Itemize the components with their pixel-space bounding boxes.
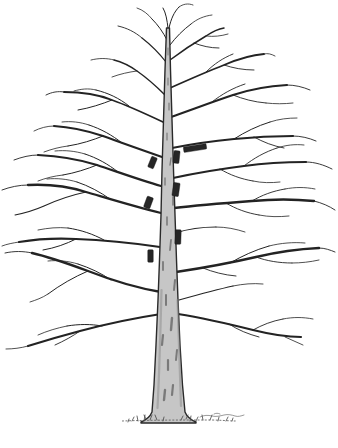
branches-right — [170, 28, 335, 345]
placement-marker-left-mid — [143, 196, 153, 209]
placement-marker-left-lower — [148, 250, 154, 263]
trunk — [141, 28, 196, 423]
artist-signature — [200, 413, 244, 417]
tree-illustration-canvas — [0, 0, 338, 448]
branches-left — [2, 8, 167, 349]
placement-marker-trunk-right-lower — [175, 230, 182, 245]
placement-marker-trunk-right-upper — [173, 150, 180, 163]
placement-marker-left-upper — [148, 156, 158, 169]
tree-pruning-illustration — [0, 0, 338, 448]
